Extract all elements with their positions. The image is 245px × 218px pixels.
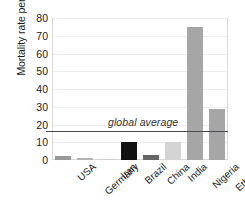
bar [209,109,225,160]
bars-layer [52,18,228,160]
x-axis-tick-labels: USAGermanyIranBrazilChinaIndiaNigeriaEth… [52,161,228,218]
bar [143,155,159,160]
bar [165,142,181,160]
y-axis-tick-label: 30 [2,102,48,112]
bar [55,156,71,160]
y-axis-tick-label: 50 [2,66,48,76]
bar-chart: Mortality rate per 100,000 0102030405060… [0,0,245,218]
global-average-label: global average [108,116,178,128]
x-axis-tick-label: India [186,161,209,184]
y-axis-tick-label: 0 [2,155,48,165]
bar [187,27,203,160]
y-axis-tick-label: 80 [2,13,48,23]
y-axis-tick-label: 60 [2,49,48,59]
y-axis-tick-label: 70 [2,31,48,41]
x-axis-tick-label: USA [75,161,98,183]
y-axis-tick-label: 40 [2,84,48,94]
x-axis-tick-label: Brazil [142,161,168,186]
y-axis-tick-label: 10 [2,137,48,147]
global-average-line [46,131,228,133]
y-axis-tick-label: 20 [2,120,48,130]
bar [121,142,137,160]
bar [99,159,115,160]
y-axis-tick-labels: 01020304050607080 [0,18,48,160]
